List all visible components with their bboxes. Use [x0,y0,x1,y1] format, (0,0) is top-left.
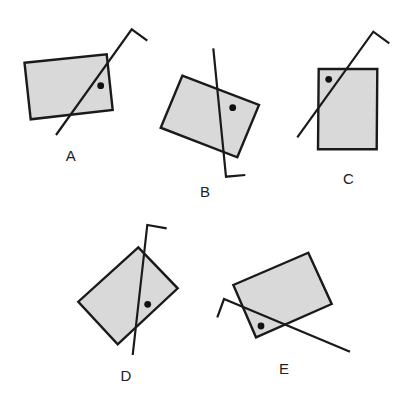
options-diagram: A B C D E [0,0,415,410]
dot-e [258,323,265,330]
option-d[interactable]: D [78,225,177,384]
option-label-c: C [343,170,354,187]
option-label-a: A [66,147,76,164]
dot-a [97,82,104,89]
option-c[interactable]: C [297,32,389,187]
option-label-e: E [279,360,289,377]
rectangle-d [78,247,177,344]
option-e[interactable]: E [217,253,350,377]
option-a[interactable]: A [25,29,148,164]
rectangle-b [161,76,259,158]
option-label-d: D [121,367,132,384]
dot-d [144,301,151,308]
option-b[interactable]: B [161,48,259,200]
option-label-b: B [200,183,210,200]
dot-c [325,76,332,83]
dot-b [229,104,236,111]
